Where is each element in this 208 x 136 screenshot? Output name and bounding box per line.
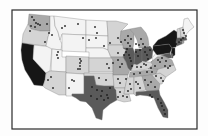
location-marker — [122, 95, 124, 97]
location-marker — [162, 80, 164, 82]
location-marker — [29, 30, 31, 32]
location-marker — [96, 32, 98, 34]
location-marker — [107, 97, 109, 99]
location-marker — [182, 37, 184, 39]
location-marker — [135, 81, 137, 83]
state-co — [66, 56, 89, 74]
location-marker — [109, 87, 111, 89]
location-marker — [178, 41, 180, 43]
location-marker — [137, 83, 139, 85]
location-marker — [96, 89, 98, 91]
location-marker — [117, 59, 119, 61]
location-marker — [112, 62, 114, 64]
location-marker — [129, 57, 131, 59]
location-marker — [47, 79, 49, 81]
location-marker — [146, 71, 148, 73]
location-marker — [149, 49, 151, 51]
location-marker — [121, 63, 123, 65]
location-marker — [71, 79, 73, 81]
location-marker — [48, 32, 50, 34]
location-marker — [157, 59, 159, 61]
location-marker — [180, 39, 182, 41]
location-marker — [140, 38, 142, 40]
location-marker — [151, 96, 153, 98]
location-marker — [91, 86, 93, 88]
location-marker — [35, 22, 37, 24]
location-marker — [127, 42, 129, 44]
location-marker — [183, 32, 185, 34]
location-marker — [30, 25, 32, 27]
location-marker — [150, 81, 152, 83]
location-marker — [137, 55, 139, 57]
location-marker — [139, 72, 141, 74]
location-marker — [160, 102, 162, 104]
location-marker — [172, 49, 174, 51]
location-marker — [80, 60, 82, 62]
location-marker — [133, 73, 135, 75]
location-marker — [46, 23, 48, 25]
location-marker — [169, 36, 171, 38]
location-marker — [126, 96, 128, 98]
location-marker — [185, 35, 187, 37]
location-marker — [127, 35, 129, 37]
location-marker — [119, 91, 121, 93]
location-marker — [103, 45, 105, 47]
location-marker — [117, 52, 119, 54]
location-marker — [130, 60, 132, 62]
location-marker — [34, 26, 36, 28]
location-marker — [82, 37, 84, 39]
location-marker — [157, 43, 159, 45]
location-marker — [162, 47, 164, 49]
location-marker — [125, 78, 127, 80]
location-marker — [119, 66, 121, 68]
location-marker — [155, 75, 157, 77]
location-marker — [37, 23, 39, 25]
location-marker — [163, 39, 165, 41]
location-marker — [167, 49, 169, 51]
location-marker — [119, 82, 121, 84]
location-marker — [39, 24, 41, 26]
location-marker — [90, 95, 92, 97]
location-marker — [160, 77, 162, 79]
location-marker — [105, 79, 107, 81]
location-marker — [94, 26, 96, 28]
location-marker — [165, 46, 167, 48]
location-marker — [33, 19, 35, 21]
location-marker — [77, 68, 79, 70]
location-marker — [117, 78, 119, 80]
location-marker — [165, 37, 167, 39]
location-marker — [50, 76, 52, 78]
location-marker — [106, 63, 108, 65]
location-marker — [77, 23, 79, 25]
location-marker — [130, 88, 132, 90]
location-marker — [57, 57, 59, 59]
location-marker — [128, 54, 130, 56]
location-marker — [159, 61, 161, 63]
location-marker — [103, 99, 105, 101]
location-marker — [117, 37, 119, 39]
location-marker — [57, 51, 59, 53]
location-marker — [164, 113, 166, 115]
location-marker — [142, 43, 144, 45]
location-marker — [161, 57, 163, 59]
location-marker — [151, 71, 153, 73]
location-marker — [160, 41, 162, 43]
location-marker — [95, 37, 97, 39]
location-marker — [51, 34, 53, 36]
location-marker — [161, 105, 163, 107]
location-marker — [146, 54, 148, 56]
location-marker — [125, 51, 127, 53]
location-marker — [154, 65, 156, 67]
location-marker — [140, 66, 142, 68]
location-marker — [64, 25, 66, 27]
location-marker — [144, 79, 146, 81]
location-marker — [108, 67, 110, 69]
location-marker — [129, 83, 131, 85]
location-marker — [143, 63, 145, 65]
location-marker — [61, 27, 63, 29]
location-marker — [68, 87, 70, 89]
location-marker — [56, 54, 58, 56]
map-figure — [0, 0, 208, 136]
location-marker — [147, 84, 149, 86]
location-marker — [123, 54, 125, 56]
